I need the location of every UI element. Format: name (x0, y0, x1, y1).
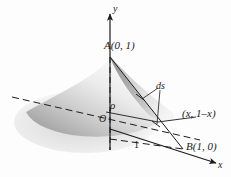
origin-label: O (99, 114, 106, 124)
radius-label-rho: ρ (110, 100, 115, 111)
base-point-label-B: B(1, 0) (186, 141, 217, 152)
x-axis-label: x (218, 160, 222, 170)
cone-diagram-figure: y x O A(0, 1) B(1, 0) (x, 1–x) ds ρ 1 (0, 0, 231, 177)
apex-label-A: A(0, 1) (104, 40, 135, 51)
unit-length-label: 1 (134, 140, 139, 150)
ds-element-label: ds (156, 81, 165, 91)
cone-solid (14, 56, 174, 153)
y-axis-label: y (113, 4, 117, 14)
surface-point-label: (x, 1–x) (182, 108, 216, 119)
